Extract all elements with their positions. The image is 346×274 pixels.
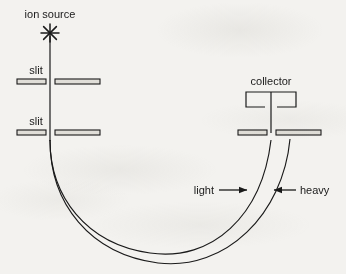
slit-upper-right-bar <box>55 79 100 84</box>
collector-label: collector <box>251 75 292 87</box>
slit-collector <box>238 130 321 135</box>
slit-collector-left-bar <box>238 130 267 135</box>
mass-spectrometer-schematic: ion source slit slit collector light hea… <box>0 0 346 274</box>
slit-upper-label: slit <box>29 64 42 76</box>
diagram-canvas: ion source slit slit collector light hea… <box>0 0 346 274</box>
slit-lower-left-bar <box>17 130 46 135</box>
slit-lower-right-bar <box>55 130 100 135</box>
heavy-ion-trajectory <box>50 139 290 264</box>
slit-collector-right-bar <box>276 130 321 135</box>
light-label: light <box>194 184 214 196</box>
heavy-label: heavy <box>300 184 330 196</box>
slit-lower-label: slit <box>29 115 42 127</box>
slit-upper <box>17 79 100 84</box>
ion-source-label: ion source <box>25 8 76 20</box>
slit-upper-left-bar <box>17 79 46 84</box>
slit-lower <box>17 130 100 135</box>
light-ion-trajectory <box>50 140 271 254</box>
